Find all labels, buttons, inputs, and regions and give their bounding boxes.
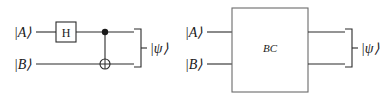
hadamard-gate: H: [56, 22, 76, 42]
right-brace-shape: [345, 29, 352, 67]
right-output-brace: [345, 29, 358, 67]
right-input-label-a: |A⟩: [185, 25, 203, 40]
right-circuit: |A⟩ |B⟩ BC |ψ⟩: [185, 8, 380, 92]
bc-box-label: BC: [263, 42, 278, 54]
cnot-gate: [100, 29, 110, 69]
left-circuit: |A⟩ |B⟩ H: [14, 22, 169, 72]
left-output-label-psi: |ψ⟩: [150, 41, 169, 56]
cnot-control-dot: [102, 29, 108, 35]
left-input-label-b: |B⟩: [14, 57, 32, 72]
right-input-label-b: |B⟩: [185, 57, 203, 72]
left-output-brace: [134, 29, 147, 67]
quantum-circuit-figure: |A⟩ |B⟩ H: [0, 0, 392, 96]
bc-black-box: BC: [232, 8, 308, 92]
left-input-label-a: |A⟩: [14, 25, 32, 40]
right-output-label-psi: |ψ⟩: [361, 41, 380, 56]
hadamard-gate-label: H: [62, 26, 71, 40]
left-brace-shape: [134, 29, 141, 67]
